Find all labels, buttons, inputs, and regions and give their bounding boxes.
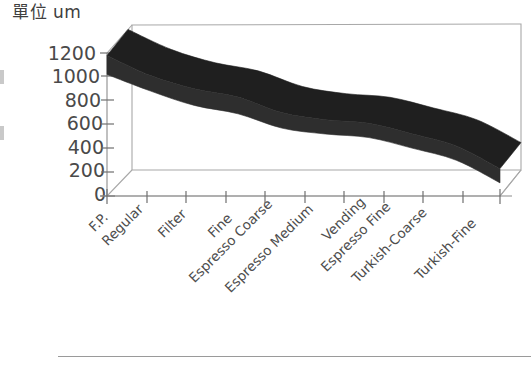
ribbon-plot-area <box>0 0 531 367</box>
page-horizontal-rule <box>58 356 531 357</box>
chart-figure: 單位 um 1200 1000 800 600 400 200 0 F.P. R… <box>0 0 531 367</box>
depth-edge-right <box>500 170 521 196</box>
data-ribbon <box>107 29 521 183</box>
x-axis <box>101 189 512 204</box>
floor-polygon <box>107 170 521 196</box>
